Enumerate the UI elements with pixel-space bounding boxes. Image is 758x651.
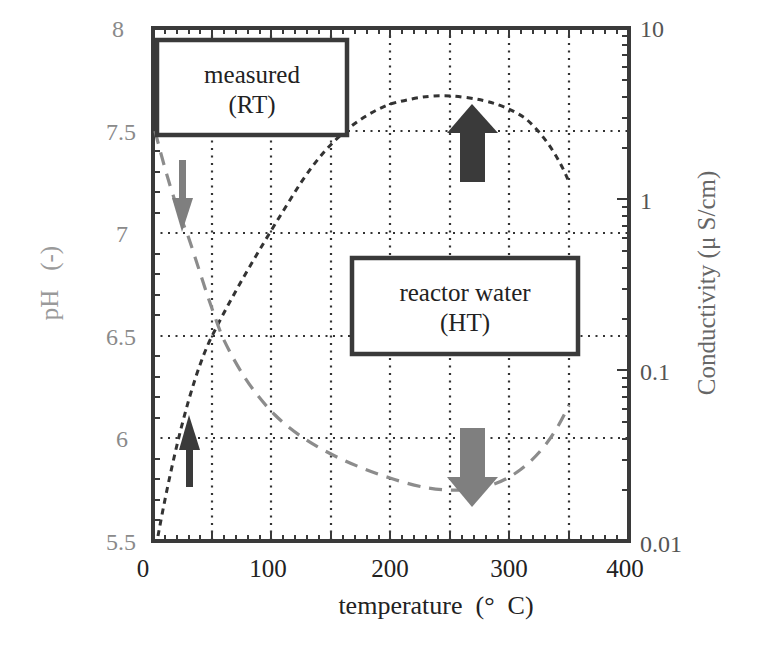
measured-label: measured	[204, 61, 300, 88]
y-right-tick-labels: 10 1 0.1 0.01	[640, 16, 682, 557]
svg-text:400: 400	[606, 555, 644, 582]
reactor-water-ht-label-box: reactor water (HT)	[352, 258, 578, 354]
x-axis-title: temperature (° C)	[338, 591, 533, 620]
svg-text:10: 10	[640, 16, 664, 42]
svg-text:6.5: 6.5	[106, 324, 136, 350]
ph-conductivity-chart: measured (RT) reactor water (HT) 8 7.5 7…	[0, 0, 758, 651]
svg-text:5.5: 5.5	[106, 529, 136, 555]
y-right-axis-title: Conductivity (μ S/cm)	[693, 171, 721, 396]
x-tick-labels: 0 100 200 300 400	[137, 555, 644, 582]
svg-text:1: 1	[640, 188, 652, 214]
svg-text:7.5: 7.5	[106, 119, 136, 145]
svg-text:8: 8	[112, 16, 124, 42]
svg-text:300: 300	[490, 555, 528, 582]
svg-text:0.01: 0.01	[640, 531, 682, 557]
arrow-down-gray-large-icon	[447, 428, 498, 507]
svg-text:0: 0	[137, 555, 150, 582]
ht-label: (HT)	[440, 309, 490, 337]
y-left-axis-title: pH (-)	[36, 246, 64, 320]
rt-label: (RT)	[228, 91, 275, 119]
reactor-water-label: reactor water	[399, 279, 531, 306]
svg-text:0.1: 0.1	[640, 359, 670, 385]
svg-text:200: 200	[371, 555, 409, 582]
measured-rt-label-box: measured (RT)	[157, 40, 347, 135]
svg-text:6: 6	[116, 426, 128, 452]
svg-text:100: 100	[249, 555, 287, 582]
arrow-up-dark-large-icon	[447, 104, 498, 182]
arrow-down-gray-small-icon	[172, 160, 193, 232]
svg-text:7: 7	[116, 221, 128, 247]
y-left-tick-labels: 8 7.5 7 6.5 6 5.5	[106, 16, 136, 555]
